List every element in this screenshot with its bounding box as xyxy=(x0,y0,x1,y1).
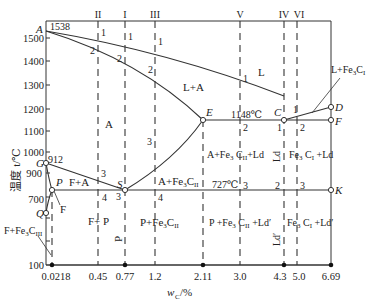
region-F-A: F+A xyxy=(69,176,89,188)
svg-text:S: S xyxy=(117,178,123,190)
y-tick: 1400 xyxy=(23,56,44,67)
svg-text:2: 2 xyxy=(300,122,305,133)
x-tick: 6.69 xyxy=(322,271,340,282)
region-P: P xyxy=(112,236,124,242)
region-A-Fe3C-Ld: A+Fe3 CII+Ld xyxy=(207,149,264,162)
svg-text:1: 1 xyxy=(158,36,163,47)
svg-text:1: 1 xyxy=(243,73,248,84)
svg-text:2: 2 xyxy=(275,180,280,191)
region-L: L xyxy=(258,66,265,78)
region-A: A xyxy=(105,118,113,130)
region-P-Fe3C: P+Fe3CII xyxy=(140,216,180,230)
svg-text:4: 4 xyxy=(102,192,107,203)
point-F xyxy=(328,117,333,122)
GP-line xyxy=(46,163,52,190)
svg-text:2: 2 xyxy=(117,53,122,64)
svg-text:IV: IV xyxy=(279,9,290,20)
svg-text:C: C xyxy=(274,106,282,118)
svg-text:1: 1 xyxy=(128,31,133,42)
point-C xyxy=(281,117,286,122)
svg-text:1: 1 xyxy=(101,27,106,38)
svg-text:1: 1 xyxy=(277,122,282,133)
svg-text:II: II xyxy=(95,9,102,20)
svg-text:3: 3 xyxy=(300,180,305,191)
region-L-A: L+A xyxy=(183,81,204,93)
svg-text:w: w xyxy=(167,286,175,298)
x-tick-labels: 0.0218 0.45 0.77 1.2 2.11 3.0 4.3 5.0 6.… xyxy=(42,271,341,282)
svg-text:3: 3 xyxy=(101,168,106,179)
y-tick: 1200 xyxy=(23,104,44,115)
svg-text:/%: /% xyxy=(180,286,192,298)
region-Ld: Ld xyxy=(271,151,282,162)
region-Fe3C-Ldp: Fe3 CI +Ld′ xyxy=(287,217,333,230)
svg-text:K: K xyxy=(334,184,343,196)
svg-text:2: 2 xyxy=(90,45,95,56)
svg-text:1148℃: 1148℃ xyxy=(231,109,262,120)
PQ-line xyxy=(46,190,52,213)
liquidus-CD xyxy=(284,107,331,120)
phase-points xyxy=(43,104,333,215)
y-tick: 700 xyxy=(28,194,44,205)
x-tick: 0.77 xyxy=(116,271,134,282)
region-F-Fe3CIII: F+Fe3CIII xyxy=(4,225,43,238)
point-K xyxy=(328,187,333,192)
region-F-P: F+ P xyxy=(88,215,109,227)
region-L-Fe3C: L+Fe3CI xyxy=(331,64,366,77)
region-Fe3C-Ld: Fe3 CI +Ld xyxy=(289,149,333,162)
svg-text:F: F xyxy=(334,115,342,127)
svg-text:727℃: 727℃ xyxy=(212,179,238,190)
x-tick: 4.3 xyxy=(273,271,286,282)
svg-text:III: III xyxy=(150,9,160,20)
svg-text:A: A xyxy=(35,23,43,35)
x-tick: 5.0 xyxy=(292,271,305,282)
alloy-numerals: II I III V IV VI xyxy=(95,9,305,20)
point-S xyxy=(122,187,127,192)
liquidus-AC xyxy=(46,31,284,96)
svg-text:I: I xyxy=(123,9,126,20)
iron-carbon-phase-diagram: 1500 1400 1300 1200 1100 1000 900 700 10… xyxy=(0,0,377,303)
point-Q xyxy=(43,210,48,215)
x-tick: 3.0 xyxy=(233,271,246,282)
svg-text:V: V xyxy=(236,9,244,20)
region-A-Fe3C: A+Fe3CII xyxy=(158,175,199,189)
point-P xyxy=(49,187,54,192)
x-tick: 2.11 xyxy=(194,271,212,282)
svg-text:3: 3 xyxy=(116,191,121,202)
x-axis-title: w C /% xyxy=(167,286,192,301)
point-E xyxy=(200,117,205,122)
svg-text:2: 2 xyxy=(243,122,248,133)
y-tick: 100 xyxy=(28,260,44,271)
y-tick: 1300 xyxy=(23,80,44,91)
svg-text:3: 3 xyxy=(243,180,248,191)
region-Ldp: Ld′ xyxy=(271,233,282,246)
x-tick: 0.0218 xyxy=(42,271,71,282)
svg-text:Q: Q xyxy=(36,207,44,219)
svg-text:3: 3 xyxy=(147,136,152,147)
svg-text:VI: VI xyxy=(294,9,305,20)
svg-text:G: G xyxy=(36,157,44,169)
svg-text:1538: 1538 xyxy=(50,21,70,32)
svg-text:D: D xyxy=(334,101,343,113)
x-tick: 1.2 xyxy=(148,271,161,282)
y-tick: 900 xyxy=(26,168,42,179)
x-tick: 0.45 xyxy=(89,271,107,282)
svg-text:P: P xyxy=(55,176,63,188)
svg-text:1: 1 xyxy=(293,104,298,115)
svg-text:E: E xyxy=(205,106,213,118)
region-F: F xyxy=(60,203,66,215)
svg-text:4: 4 xyxy=(158,192,163,203)
y-axis-title: 温度 t/℃ xyxy=(9,148,22,191)
y-tick: 1100 xyxy=(23,126,44,137)
svg-text:2: 2 xyxy=(148,64,153,75)
plot-frame xyxy=(46,21,331,265)
svg-text:912: 912 xyxy=(48,154,63,165)
point-D xyxy=(328,104,333,109)
